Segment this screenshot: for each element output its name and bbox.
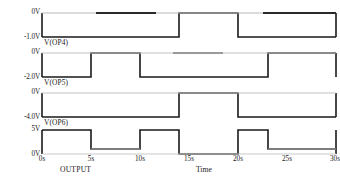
trace-svg-vop5: [41, 52, 337, 78]
y-axis-labels-vop4: 0V -1.0V: [0, 12, 40, 38]
trace-line-vop5: [42, 53, 336, 77]
y-tick-bottom-vop5: -2.0V: [4, 74, 40, 81]
signal-label-vop6: V(OP6): [44, 119, 68, 127]
y-tick-top-vop6: 0V: [4, 89, 40, 96]
waveform-panel-vop5: 0V -2.0V V(OP5): [0, 52, 339, 78]
trace-svg-output: [41, 129, 337, 155]
x-tick-0s: 0s: [39, 155, 45, 163]
trace-line-vop6: [42, 93, 336, 117]
signal-label-vop4: V(OP4): [44, 39, 68, 47]
y-tick-top-output: 5V: [4, 126, 40, 133]
x-tick-15s: 15s: [184, 155, 194, 163]
y-tick-bottom-vop4: -1.0V: [4, 34, 40, 41]
waveform-panel-vop6: 0V -4.0V V(OP6): [0, 92, 339, 118]
trace-area-vop4: [41, 12, 337, 38]
x-tick-10s: 10s: [135, 155, 145, 163]
x-tick-30s: 30s: [330, 155, 340, 163]
y-tick-bottom-vop6: -4.0V: [4, 114, 40, 121]
x-tick-25s: 25s: [282, 155, 292, 163]
trace-line-vop4: [42, 13, 336, 37]
y-axis-labels-vop6: 0V -4.0V: [0, 92, 40, 118]
signal-label-vop5: V(OP5): [44, 79, 68, 87]
trace-svg-vop4: [41, 12, 337, 38]
waveform-panel-output: 5V 0V: [0, 129, 339, 155]
x-axis-title: Time: [196, 166, 212, 174]
y-tick-top-vop4: 0V: [4, 9, 40, 16]
x-tick-20s: 20s: [233, 155, 243, 163]
trace-svg-vop6: [41, 92, 337, 118]
trace-line-output: [42, 130, 336, 154]
trace-area-vop6: [41, 92, 337, 118]
y-axis-labels-output: 5V 0V: [0, 129, 40, 155]
x-tick-5s: 5s: [88, 155, 94, 163]
y-tick-bottom-output: 0V: [4, 151, 40, 158]
output-signal-label: OUTPUT: [60, 166, 91, 174]
trace-area-vop5: [41, 52, 337, 78]
y-axis-labels-vop5: 0V -2.0V: [0, 52, 40, 78]
trace-area-output: [41, 129, 337, 155]
y-tick-top-vop5: 0V: [4, 49, 40, 56]
waveform-panel-vop4: 0V -1.0V V(OP4): [0, 12, 339, 38]
